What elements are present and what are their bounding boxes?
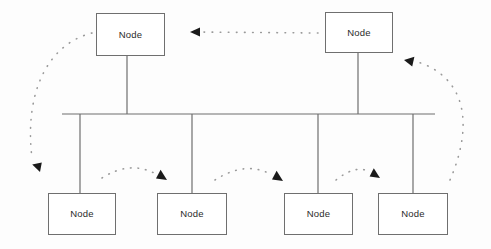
arrowhead-bottom-arc-1 [156, 170, 167, 180]
arrowhead-bottom-arc-2 [272, 171, 283, 181]
node-bottom-4[interactable]: Node [378, 193, 448, 235]
node-label: Node [119, 30, 143, 40]
node-top-right[interactable]: Node [325, 12, 393, 53]
network-topology-diagram: Node Node Node Node Node Node [0, 0, 491, 249]
node-bottom-1[interactable]: Node [48, 193, 116, 235]
signal-path-bottom-arc-3 [336, 168, 380, 180]
arrowhead-bottom-arc-3 [370, 168, 380, 178]
signal-path-bottom-arc-1 [102, 168, 167, 180]
node-bottom-2[interactable]: Node [157, 193, 227, 235]
node-top-left[interactable]: Node [96, 13, 165, 56]
signal-path-bottom-arc-2 [215, 169, 283, 181]
node-label: Node [307, 209, 331, 219]
node-label: Node [347, 28, 371, 38]
node-label: Node [180, 209, 204, 219]
arrowhead-left-arc-down [32, 163, 42, 172]
signal-path-left-arc [30, 33, 92, 172]
node-label: Node [401, 209, 425, 219]
arrowhead-right-arc-up [404, 57, 414, 67]
arrowhead-top-left-direction [190, 27, 200, 36]
node-bottom-3[interactable]: Node [284, 193, 353, 235]
signal-path-top-horizontal [190, 27, 318, 36]
node-label: Node [70, 209, 94, 219]
